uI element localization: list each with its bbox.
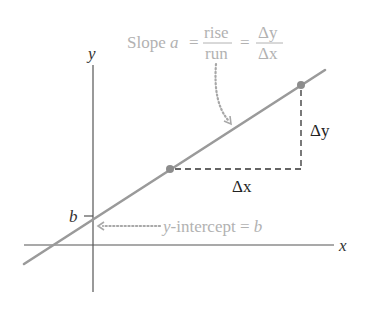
frac2-numerator: Δy xyxy=(258,23,278,42)
frac1-numerator: rise xyxy=(204,23,229,42)
slope-annotation: Slope a = rise run = Δy Δx xyxy=(127,23,283,124)
frac1-denominator: run xyxy=(205,44,228,63)
x-axis-label: x xyxy=(338,236,347,255)
delta-x-label: Δx xyxy=(232,177,252,196)
delta-y-text: Δy xyxy=(310,121,330,140)
intercept-annotation: y-intercept = b xyxy=(98,217,262,236)
frac2-num-text: Δy xyxy=(258,23,278,42)
slope-variable: a xyxy=(170,33,179,52)
equals-1: = xyxy=(189,33,199,52)
slope-pointer-arrow xyxy=(216,64,229,120)
frac2-denominator: Δx xyxy=(258,44,278,63)
point-2-marker xyxy=(297,81,305,89)
intercept-var: y xyxy=(161,217,171,236)
point-1-marker xyxy=(166,165,174,173)
delta-y-label: Δy xyxy=(310,121,330,140)
delta-x-text: Δx xyxy=(232,177,252,196)
slope-word: Slope xyxy=(127,33,170,52)
intercept-tick-label: b xyxy=(69,207,78,226)
intercept-value: b xyxy=(254,217,263,236)
intercept-label: y-intercept = b xyxy=(161,217,262,236)
frac2-den-text: Δx xyxy=(258,44,278,63)
slope-prefix: Slope a xyxy=(127,33,178,52)
rise-run-triangle xyxy=(175,90,301,169)
equals-2: = xyxy=(240,33,250,52)
axes: x y xyxy=(24,44,347,292)
intercept-text: -intercept = xyxy=(171,217,254,236)
y-axis-label: y xyxy=(86,44,96,63)
slope-intercept-diagram: x y b Δx Δy Slope a = rise run = Δy Δx xyxy=(0,0,379,314)
